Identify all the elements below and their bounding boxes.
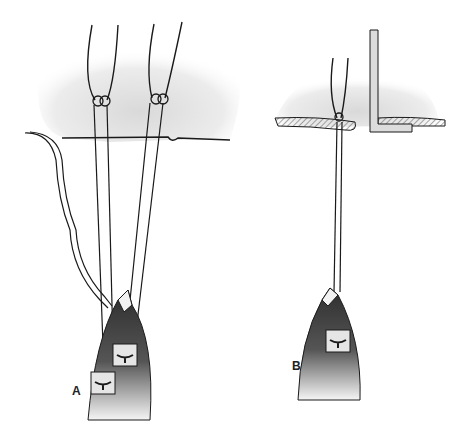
panel-label-b: B bbox=[292, 359, 301, 373]
illustration: A B bbox=[0, 0, 475, 432]
panel-b bbox=[275, 30, 445, 400]
panel-label-a: A bbox=[72, 384, 81, 398]
panel-a bbox=[25, 22, 240, 420]
